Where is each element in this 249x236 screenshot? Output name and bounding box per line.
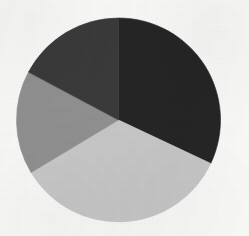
pie-chart-svg [0,0,249,236]
pie-slices-group [17,18,221,222]
pie-chart-figure [0,0,249,236]
